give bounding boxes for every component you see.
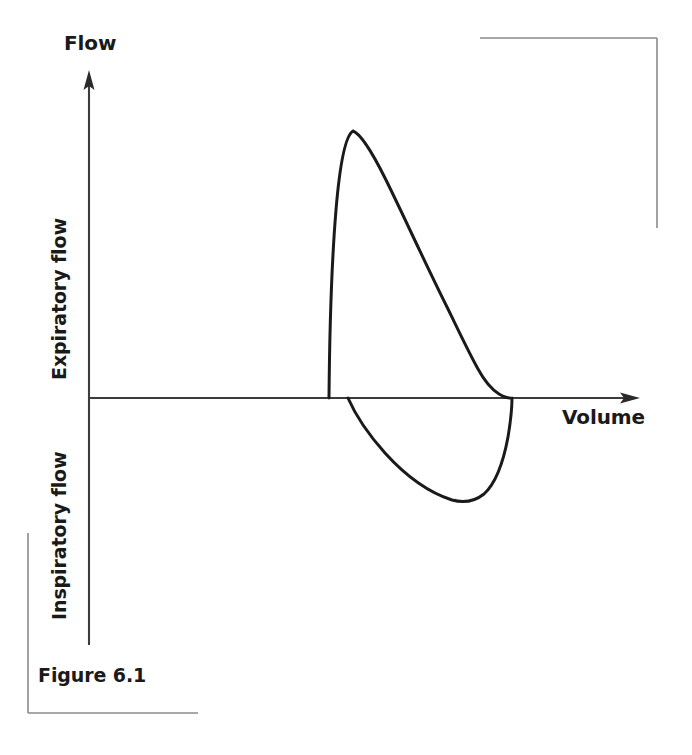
chart-axes <box>84 70 641 645</box>
inspiratory-limb-curve <box>348 398 512 502</box>
page-frame-marks <box>28 38 657 713</box>
inspiratory-flow-region-label: Inspiratory flow <box>50 451 69 620</box>
flow-volume-loop-chart <box>0 0 692 755</box>
figure-caption: Figure 6.1 <box>38 666 146 685</box>
expiratory-flow-region-label: Expiratory flow <box>50 218 69 380</box>
expiratory-limb-curve <box>329 131 510 398</box>
y-axis-label: Flow <box>64 33 116 53</box>
x-axis-label: Volume <box>562 407 645 427</box>
figure-container: Flow Volume Expiratory flow Inspiratory … <box>0 0 692 755</box>
